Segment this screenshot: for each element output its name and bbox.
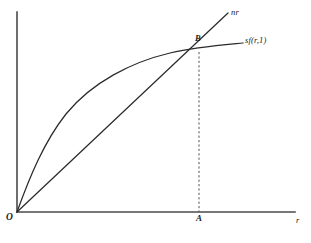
point-a-label: A xyxy=(196,214,202,223)
production-function-curve xyxy=(17,43,243,212)
nr-ray-label: nr xyxy=(231,8,239,17)
figure-canvas: nr sf(r,1) B A O r xyxy=(0,0,311,243)
point-b-label: B xyxy=(195,34,201,43)
x-axis-label: r xyxy=(296,216,300,225)
sf-curve-label: sf(r,1) xyxy=(245,36,266,45)
origin-label: O xyxy=(6,213,13,223)
